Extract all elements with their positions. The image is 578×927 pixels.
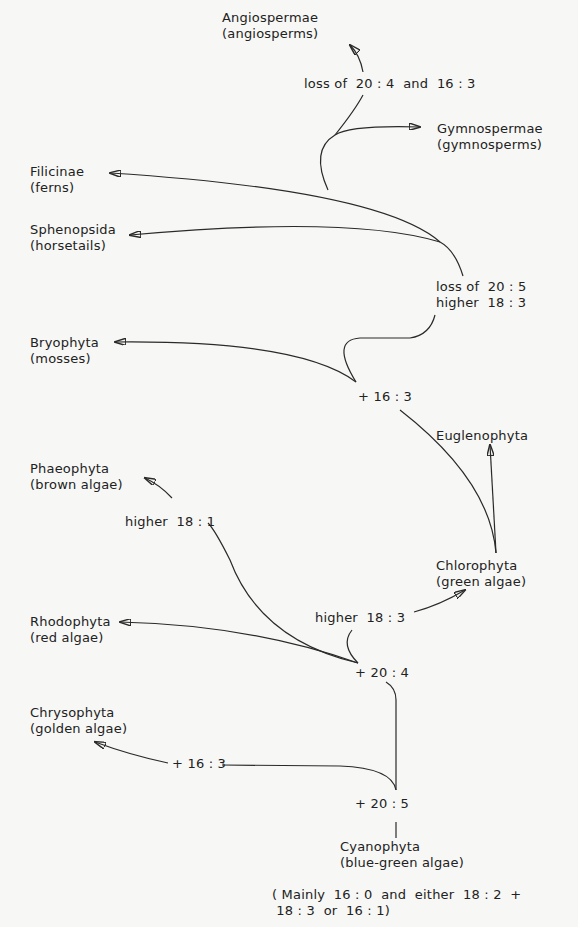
- branch-bryo-hook: [344, 315, 435, 382]
- branch-chryso: [222, 765, 396, 790]
- arrow-spheno: [130, 226, 440, 242]
- taxon-cyanophyta: Cyanophyta(blue-green algae): [340, 839, 464, 871]
- change-bryo: + 16 : 3: [358, 389, 412, 405]
- taxon-chrysophyta: Chrysophyta(golden algae): [30, 705, 127, 737]
- change-chloro: higher 18 : 3: [315, 610, 405, 626]
- arrow-phaeo: [145, 478, 172, 498]
- arrow-chryso: [95, 742, 168, 763]
- change-angio: loss of 20 : 4 and 16 : 3: [304, 76, 476, 92]
- footnote: ( Mainly 16 : 0 and either 18 : 2 + 18 :…: [272, 887, 521, 919]
- taxon-angiospermae: Angiospermae(angiosperms): [222, 10, 318, 42]
- taxon-gymnospermae: Gymnospermae(gymnosperms): [437, 121, 543, 153]
- branch-chloro-hook: [347, 630, 358, 663]
- arrow-angio: [350, 45, 363, 72]
- taxon-chlorophyta: Chlorophyta(green algae): [436, 558, 526, 590]
- taxon-euglenophyta: Euglenophyta: [436, 428, 528, 444]
- change-phaeo: higher 18 : 1: [125, 514, 215, 530]
- change-tracheo: loss of 20 : 5higher 18 : 3: [436, 279, 527, 311]
- taxon-filicinae: Filicinae(ferns): [30, 164, 84, 196]
- taxon-rhodophyta: Rhodophyta(red algae): [30, 614, 111, 646]
- arrow-gymno: [335, 127, 420, 135]
- branch-seed: [320, 135, 335, 190]
- arrow-bryo: [115, 342, 356, 382]
- taxon-phaeophyta: Phaeophyta(brown algae): [30, 461, 123, 493]
- arrow-rhodo: [120, 622, 358, 663]
- taxon-sphenopsida: Sphenopsida(horsetails): [30, 222, 116, 254]
- change-rhodo: + 20 : 4: [355, 665, 409, 681]
- stem-tracheo: [440, 242, 463, 276]
- arrow-chloro: [414, 590, 465, 612]
- taxon-bryophyta: Bryophyta(mosses): [30, 335, 99, 367]
- change-cyano: + 20 : 5: [355, 796, 409, 812]
- branch-20-5-to-20-4: [386, 682, 396, 790]
- change-chryso: + 16 : 3: [172, 756, 226, 772]
- arrow-euglena: [490, 445, 496, 553]
